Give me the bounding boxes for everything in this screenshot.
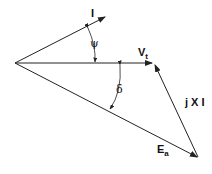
emf-label: Ea xyxy=(157,144,169,155)
emf-vector xyxy=(15,63,197,157)
phasor-diagram-svg xyxy=(0,0,212,174)
emf-sub: a xyxy=(164,149,168,158)
psi-label: ψ xyxy=(90,38,99,49)
phasor-diagram: I ψ Vt δ j X I Ea xyxy=(0,0,212,174)
terminal-voltage-sub: t xyxy=(145,52,148,61)
current-label: I xyxy=(91,8,94,19)
terminal-voltage-label: Vt xyxy=(138,47,148,58)
reactance-drop-label: j X I xyxy=(185,97,205,108)
delta-label: δ xyxy=(116,84,123,95)
